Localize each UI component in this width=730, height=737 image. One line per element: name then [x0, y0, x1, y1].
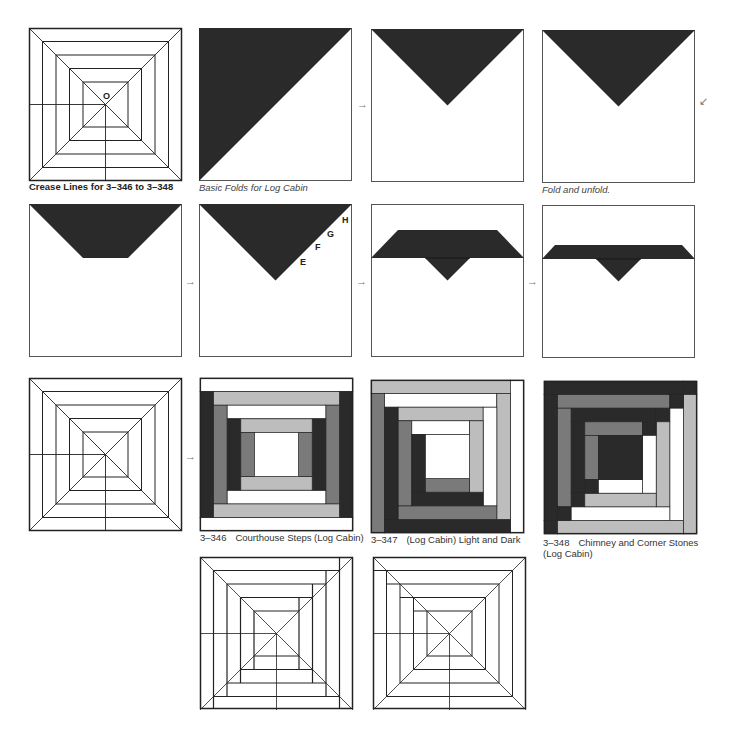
block-number: 3–347: [371, 534, 397, 545]
quilt-strip-mid: [241, 432, 255, 476]
fold-step-fold-unfold: [542, 30, 695, 183]
arrow-right-icon: →: [356, 276, 367, 286]
arrow-right-icon: →: [357, 99, 368, 109]
quilt-strip-light: [214, 504, 340, 518]
edge-label-e: E: [300, 257, 306, 267]
crease-diagram-main: O: [29, 28, 182, 181]
quilt-strip-light: [241, 419, 312, 433]
quilt-strip-light: [214, 392, 340, 406]
quilt-strip-white: [483, 407, 497, 506]
caption-fold-unfold: Fold and unfold.: [542, 184, 610, 195]
quilt-block-svg: [544, 381, 697, 534]
quilt-strip-dark: [385, 519, 511, 533]
caption-basic-folds: Basic Folds for Log Cabin: [199, 182, 308, 193]
crease-diagram-courthouse: [200, 557, 353, 710]
quilt-strip-white: [200, 378, 353, 392]
block-number: 3–346: [200, 532, 226, 543]
quilt-strip-light: [558, 520, 684, 534]
quilt-strip-light: [241, 477, 312, 491]
center-point-label: O: [103, 91, 110, 101]
quilt-strip-mid: [214, 405, 228, 504]
caption-block-347: 3–347(Log Cabin) Light and Dark: [371, 534, 521, 545]
quilt-strip-dark: [585, 480, 599, 494]
caption-block-348: 3–348Chimney and Corner Stones (Log Cabi…: [543, 537, 713, 559]
folded-band: [371, 230, 524, 258]
quilt-strip-light: [371, 380, 510, 394]
quilt-strip-mid: [558, 408, 572, 507]
quilt-strip-dark: [200, 392, 214, 518]
fold-step-band-wide: [371, 204, 524, 357]
quilt-strip-white: [510, 380, 524, 533]
quilt-strip-dark: [339, 392, 353, 518]
block-number: 3–348: [543, 537, 569, 548]
edge-label-g: G: [327, 229, 334, 239]
quilt-strip-white: [200, 517, 353, 531]
quilt-strip-mid: [398, 421, 412, 506]
quilt-strip-mid: [425, 479, 469, 493]
fold-step-top-triangle: [371, 29, 524, 182]
quilt-strip-mid: [371, 394, 385, 533]
arrow-right-icon: →: [185, 276, 196, 286]
quilt-strip-mid: [558, 395, 670, 409]
quilt-strip-white: [670, 408, 684, 520]
quilt-strip-dark: [412, 434, 426, 492]
fold-step-trapezoid: [29, 204, 182, 357]
quilt-strip-dark: [412, 492, 483, 506]
quilt-strip-white: [254, 432, 298, 476]
quilt-strip-dark: [385, 407, 399, 519]
quilt-strip-dark: [312, 419, 326, 490]
crease-lines-svg: [29, 28, 182, 181]
arrow-right-icon: →: [185, 451, 196, 461]
quilt-strip-mid: [326, 405, 340, 504]
quilt-strip-dark: [544, 520, 558, 534]
quilt-block-svg: [371, 380, 524, 533]
quilt-strip-white: [385, 394, 497, 408]
quilt-strip-white: [412, 421, 470, 435]
quilt-strip-dark: [683, 381, 697, 395]
edge-label-h: H: [341, 215, 350, 225]
quilt-strip-light: [398, 407, 483, 421]
quilt-strip-dark: [558, 507, 572, 521]
fold-step-diagonal: [199, 28, 352, 181]
quilt-strip-white: [227, 405, 326, 419]
quilt-block-svg: [200, 378, 353, 531]
quilt-strip-light: [470, 421, 484, 492]
edge-label-f: F: [315, 242, 321, 252]
caption-crease-lines: Crease Lines for 3–346 to 3–348: [29, 181, 173, 192]
quilt-strip-dark: [227, 419, 241, 490]
quilt-strip-dark: [670, 395, 684, 409]
block-title: Courthouse Steps (Log Cabin): [235, 532, 363, 543]
quilt-strip-white: [227, 490, 326, 504]
quilt-strip-light: [656, 422, 670, 507]
quilt-strip-dark: [544, 395, 558, 521]
quilt-strip-light: [585, 493, 656, 507]
crease-diagram-repeat: [29, 378, 182, 531]
quilt-strip-dark: [571, 493, 585, 507]
block-3-348-chimney-corner-stones: [544, 381, 697, 534]
quilt-strip-mid: [585, 435, 599, 479]
arrow-right-icon: →: [527, 276, 538, 286]
caption-block-346: 3–346Courthouse Steps (Log Cabin): [200, 532, 364, 543]
fold-step-labeled: H G F E: [199, 204, 352, 357]
quilt-strip-white: [571, 507, 670, 521]
fold-step-band-narrow: [542, 205, 695, 358]
arrow-down-left-icon: ↙: [699, 96, 708, 106]
quilt-strip-dark: [643, 422, 657, 436]
quilt-strip-mid: [398, 506, 497, 520]
quilt-strip-light: [497, 394, 511, 520]
quilt-strip-mid: [299, 432, 313, 476]
quilt-strip-dark: [598, 435, 642, 479]
crease-diagram-light-dark: [373, 557, 526, 710]
quilt-strip-white: [598, 480, 642, 494]
quilt-strip-dark: [571, 422, 585, 493]
block-title: (Log Cabin) Light and Dark: [406, 534, 520, 545]
quilt-strip-dark: [544, 381, 683, 395]
quilt-strip-light: [683, 395, 697, 534]
quilt-strip-mid: [585, 422, 643, 436]
quilt-strip-dark: [656, 408, 670, 422]
quilt-strip-white: [643, 435, 657, 493]
folded-band: [542, 245, 695, 259]
block-3-346-courthouse-steps: [200, 378, 353, 531]
quilt-strip-dark: [571, 408, 656, 422]
block-3-347-light-and-dark: [371, 380, 524, 533]
